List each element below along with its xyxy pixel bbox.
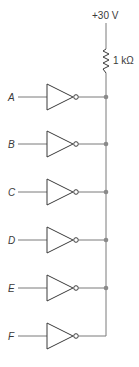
inverter-triangle-icon [47,131,73,157]
inverter-triangle-icon [47,179,73,205]
inverter-gate-b: B [8,131,108,157]
inversion-bubble-icon [74,190,79,195]
inversion-bubble-icon [74,334,79,339]
input-label: C [8,187,16,198]
inverter-gate-c: C [8,179,108,205]
junction-dot-icon [104,95,109,100]
junction-dot-icon [104,190,109,195]
inverter-triangle-icon [47,227,73,253]
inverter-gate-e: E [8,275,108,301]
resistor-label: 1 kΩ [113,55,134,66]
input-label: F [8,331,15,342]
inverter-triangle-icon [47,275,73,301]
junction-dot-icon [104,238,109,243]
inversion-bubble-icon [74,95,79,100]
resistor-icon [103,49,109,73]
junction-dot-icon [104,286,109,291]
input-label: D [8,235,15,246]
inversion-bubble-icon [74,142,79,147]
junction-dot-icon [104,142,109,147]
inverter-gate-d: D [8,227,108,253]
input-label: B [8,139,15,150]
inverter-gate-a: A [7,84,108,110]
inverter-gate-f: F [8,323,106,349]
inverter-triangle-icon [47,323,73,349]
inversion-bubble-icon [74,286,79,291]
input-label: E [8,283,15,294]
inverter-triangle-icon [47,84,73,110]
circuit-diagram: +30 V 1 kΩ ABCDEF [0,0,139,367]
inversion-bubble-icon [74,238,79,243]
input-label: A [7,92,15,103]
supply-label: +30 V [92,10,119,21]
